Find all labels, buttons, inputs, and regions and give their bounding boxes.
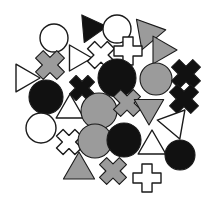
black-circle-bottom-right — [165, 140, 195, 170]
black-triangle-top — [72, 15, 107, 48]
white-circle-lower-left — [26, 113, 56, 143]
white-circle-top-left — [40, 24, 68, 52]
shape-canvas — [0, 0, 207, 199]
black-circle-left — [29, 80, 63, 114]
white-triangle-right-lower — [157, 110, 193, 144]
gray-circle-center — [81, 93, 117, 129]
white-triangle-lower-right — [138, 130, 166, 154]
shape-scene — [0, 0, 207, 199]
gray-triangle-upper-right — [153, 36, 177, 64]
black-circle-center-top — [98, 59, 136, 97]
gray-circle-right — [140, 63, 172, 95]
white-plus-bottom — [133, 164, 161, 192]
black-circle-lower-center — [107, 123, 141, 157]
